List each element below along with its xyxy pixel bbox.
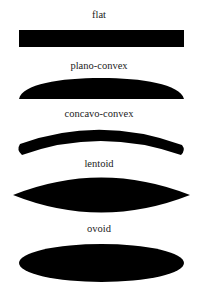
- flat-shape: [19, 30, 184, 47]
- concavo-convex-shape: [18, 130, 183, 155]
- shapes-canvas: [0, 0, 198, 287]
- ovoid-shape: [19, 244, 184, 282]
- lentoid-shape: [13, 178, 190, 213]
- plano-convex-shape: [19, 78, 184, 99]
